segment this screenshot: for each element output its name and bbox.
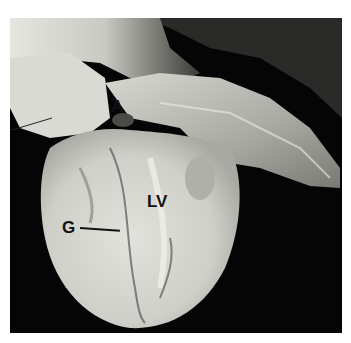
specimen-photo: A LV G bbox=[10, 18, 342, 333]
heart-specimen-illustration bbox=[10, 18, 342, 333]
label-left-ventricle: LV bbox=[147, 193, 167, 210]
label-aorta: A bbox=[111, 98, 123, 115]
label-g: G bbox=[62, 219, 75, 236]
